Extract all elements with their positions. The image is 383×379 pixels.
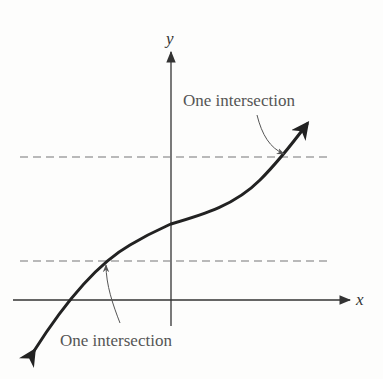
upper-annotation: One intersection xyxy=(183,91,295,154)
upper-annotation-label: One intersection xyxy=(183,91,295,110)
y-axis: y xyxy=(164,29,174,326)
lower-annotation-arrow xyxy=(106,265,120,323)
x-axis-label: x xyxy=(355,290,364,309)
lower-annotation: One intersection xyxy=(60,265,172,350)
y-axis-label: y xyxy=(164,29,174,48)
diagram-canvas: y x One intersection One intersection xyxy=(0,0,383,379)
lower-annotation-label: One intersection xyxy=(60,331,172,350)
upper-annotation-arrow xyxy=(257,115,284,154)
